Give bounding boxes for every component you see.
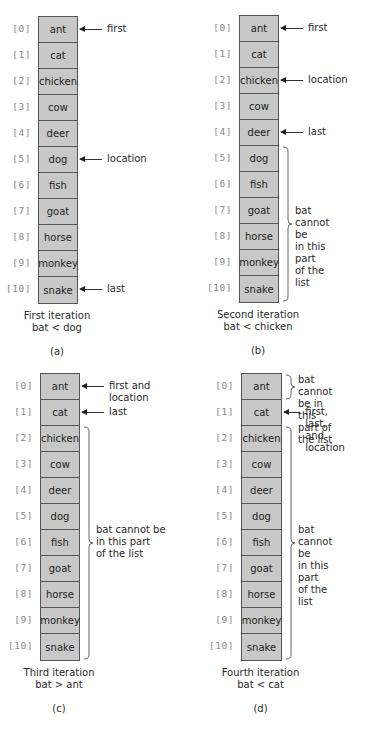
pointer-label: first xyxy=(308,22,328,34)
array-cell: cat xyxy=(41,400,79,426)
index-label: [8] xyxy=(204,588,234,599)
array-cell: chicken xyxy=(240,68,278,94)
index-label: [9] xyxy=(204,614,234,625)
array-cell: fish xyxy=(41,530,79,556)
pointer: first xyxy=(281,22,328,34)
array-cell: fish xyxy=(240,172,278,198)
array-cell: cat xyxy=(240,42,278,68)
array-cell: deer xyxy=(41,478,79,504)
array-cell: dog xyxy=(240,146,278,172)
brace-note: bat cannot be in this part of the list xyxy=(96,524,166,560)
array-cell: fish xyxy=(242,530,281,556)
arrow-left-icon xyxy=(281,80,303,81)
array-cell: ant xyxy=(240,16,278,42)
index-label: [10] xyxy=(202,282,232,293)
array-cell: chicken xyxy=(242,426,281,452)
index-label: [0] xyxy=(204,380,234,391)
index-label: [3] xyxy=(204,458,234,469)
array-cell: horse xyxy=(41,582,79,608)
subfigure-label: (b) xyxy=(238,345,278,356)
subfigure-label: (d) xyxy=(241,703,281,714)
comparison-caption: bat < chicken xyxy=(198,321,318,333)
array-box: antcatchickencowdeerdogfishgoathorsemonk… xyxy=(241,373,282,661)
index-label: [5] xyxy=(202,152,232,163)
index-label: [7] xyxy=(202,204,232,215)
array-cell: dog xyxy=(41,504,79,530)
index-label: [4] xyxy=(3,484,33,495)
index-label: [6] xyxy=(204,536,234,547)
array-box: antcatchickencowdeerdogfishgoathorsemonk… xyxy=(40,373,80,661)
pointer: last xyxy=(82,406,127,418)
array-cell: goat xyxy=(41,556,79,582)
index-label: [7] xyxy=(3,562,33,573)
iteration-caption: Second iteration xyxy=(198,309,318,321)
index-label: [8] xyxy=(202,230,232,241)
arrow-left-icon xyxy=(281,132,303,133)
array-cell: snake xyxy=(242,634,281,660)
array-cell: chicken xyxy=(41,426,79,452)
panel-d-fourth-iteration: [0][1][2][3][4][5][6][7][8][9][10]antcat… xyxy=(0,0,193,360)
array-cell: cow xyxy=(242,452,281,478)
index-label: [10] xyxy=(204,640,234,651)
array-cell: monkey xyxy=(240,250,278,276)
index-label: [9] xyxy=(3,614,33,625)
index-label: [8] xyxy=(3,588,33,599)
array-cell: cat xyxy=(242,400,281,426)
array-cell: deer xyxy=(242,478,281,504)
comparison-caption: bat < cat xyxy=(201,679,321,691)
index-label: [4] xyxy=(202,126,232,137)
array-cell: cow xyxy=(240,94,278,120)
array-cell: ant xyxy=(41,374,79,400)
array-cell: horse xyxy=(240,224,278,250)
index-label: [1] xyxy=(3,406,33,417)
arrow-left-icon xyxy=(82,412,104,413)
pointer: location xyxy=(281,74,348,86)
array-cell: snake xyxy=(41,634,79,660)
brace-note: bat cannot be in this part of the list xyxy=(298,524,332,608)
index-label: [1] xyxy=(202,48,232,59)
array-cell: ant xyxy=(242,374,281,400)
subfigure-label: (c) xyxy=(39,703,79,714)
arrow-left-icon xyxy=(281,28,303,29)
array-cell: deer xyxy=(240,120,278,146)
array-cell: monkey xyxy=(242,608,281,634)
pointer: last xyxy=(281,126,326,138)
array-cell: snake xyxy=(240,276,278,302)
index-label: [10] xyxy=(3,640,33,651)
array-box: antcatchickencowdeerdogfishgoathorsemonk… xyxy=(239,15,279,303)
array-cell: goat xyxy=(242,556,281,582)
array-cell: monkey xyxy=(41,608,79,634)
pointer-label: location xyxy=(308,74,348,86)
index-label: [2] xyxy=(204,432,234,443)
array-cell: goat xyxy=(240,198,278,224)
index-label: [6] xyxy=(202,178,232,189)
brace-note: bat cannot be in this part of the list xyxy=(298,374,332,446)
pointer: first and location xyxy=(82,380,193,404)
index-label: [3] xyxy=(202,100,232,111)
index-label: [2] xyxy=(3,432,33,443)
array-cell: dog xyxy=(242,504,281,530)
comparison-caption: bat > ant xyxy=(0,679,119,691)
index-label: [0] xyxy=(202,22,232,33)
array-cell: cow xyxy=(41,452,79,478)
index-label: [9] xyxy=(202,256,232,267)
index-label: [3] xyxy=(3,458,33,469)
pointer-label: last xyxy=(308,126,326,138)
index-label: [1] xyxy=(204,406,234,417)
index-label: [7] xyxy=(204,562,234,573)
pointer-label: last xyxy=(109,406,127,418)
brace-note: bat cannot be in this part of the list xyxy=(295,205,329,289)
arrow-left-icon xyxy=(82,386,104,387)
index-label: [5] xyxy=(3,510,33,521)
index-label: [2] xyxy=(202,74,232,85)
iteration-caption: Fourth iteration xyxy=(201,667,321,679)
index-label: [5] xyxy=(204,510,234,521)
index-label: [6] xyxy=(3,536,33,547)
index-label: [4] xyxy=(204,484,234,495)
iteration-caption: Third iteration xyxy=(0,667,119,679)
array-cell: horse xyxy=(242,582,281,608)
index-label: [0] xyxy=(3,380,33,391)
pointer-label: first and location xyxy=(109,380,193,404)
